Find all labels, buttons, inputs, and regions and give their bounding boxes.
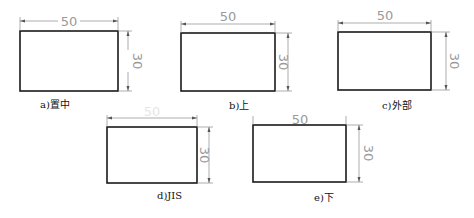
rectangle-b (181, 33, 275, 91)
height-dimension-e: 30 (361, 145, 376, 162)
height-dimension-b: 30 (276, 54, 291, 71)
caption-c: c)外部 (382, 97, 412, 112)
caption-b: b)上 (229, 97, 249, 112)
figure-d: 50 30 (107, 104, 213, 183)
figure-c: 50 30 (338, 8, 462, 90)
height-dimension-c: 30 (447, 53, 462, 70)
width-dimension-c: 50 (377, 8, 394, 23)
width-dimension-b: 50 (220, 9, 237, 24)
height-dimension-d: 30 (197, 147, 212, 164)
caption-d: d)JIS (157, 190, 182, 201)
width-dimension-a: 50 (61, 14, 78, 29)
figure-b: 50 30 (181, 9, 292, 91)
rectangle-e (253, 125, 346, 182)
rectangle-a (20, 31, 118, 91)
caption-e: e)下 (314, 189, 334, 204)
figure-a: 50 30 (20, 14, 145, 91)
width-dimension-d: 50 (144, 104, 161, 119)
width-dimension-e: 50 (292, 112, 309, 127)
rectangle-c (338, 32, 431, 90)
height-dimension-a: 30 (130, 53, 145, 70)
rectangle-d (107, 127, 197, 183)
caption-a: a)置中 (40, 96, 70, 111)
figure-e: 50 30 (253, 112, 376, 182)
